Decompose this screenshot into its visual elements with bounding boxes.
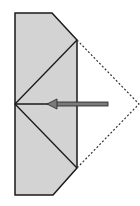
fold-diagram: Fold the right triangular flap inward al… [0, 0, 140, 206]
